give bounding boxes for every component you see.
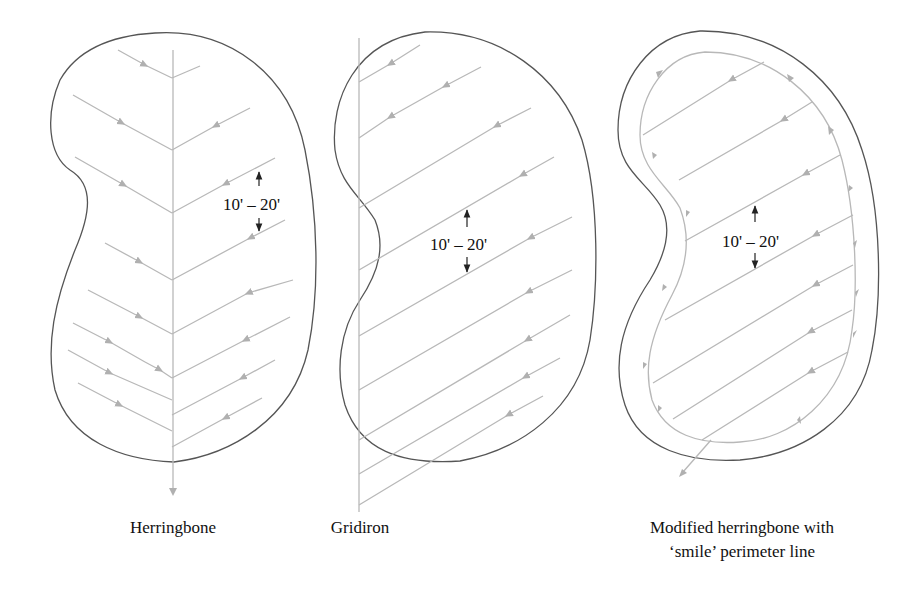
gridiron-panel: 10' – 20'	[334, 32, 595, 512]
gridiron-caption: Gridiron	[320, 516, 400, 540]
modified-laterals	[643, 62, 853, 440]
herringbone-panel: 10' – 20'	[51, 33, 316, 496]
drainage-layouts-diagram: 10' – 20' 10' – 20'	[0, 0, 918, 598]
modified-herringbone-caption-line2: ‘smile’ perimeter line	[612, 540, 872, 564]
herringbone-caption: Herringbone	[118, 516, 228, 540]
herringbone-right-laterals	[172, 66, 293, 447]
modified-herringbone-caption-line1: Modified herringbone with	[612, 516, 872, 540]
herringbone-left-laterals	[68, 50, 172, 431]
herringbone-outlet-arrow-icon	[169, 488, 177, 496]
herringbone-spacing-label: 10' – 20'	[223, 195, 280, 214]
gridiron-spacing-dimension: 10' – 20'	[430, 210, 487, 272]
gridiron-laterals	[359, 45, 572, 505]
modified-herringbone-panel: 10' – 20'	[618, 31, 879, 477]
modified-spacing-label: 10' – 20'	[722, 232, 779, 251]
gridiron-spacing-label: 10' – 20'	[430, 235, 487, 254]
herringbone-field-outline	[51, 33, 316, 462]
modified-outlet-arrow-icon	[679, 469, 687, 477]
